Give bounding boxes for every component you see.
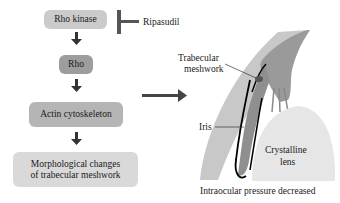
trabecular-label-line1: Trabecular xyxy=(178,53,219,63)
morphological-changes-box: Morphological changes of trabecular mesh… xyxy=(13,152,138,187)
ripasudil-label: Ripasudil xyxy=(143,17,179,27)
down-arrow-1 xyxy=(71,32,82,45)
actin-cytoskeleton-box: Actin cytoskeleton xyxy=(29,102,123,127)
down-arrow-3 xyxy=(71,132,82,145)
morph-label-line1: Morphological changes xyxy=(31,159,120,170)
trabecular-label-line2: meshwork xyxy=(184,64,224,74)
rho-kinase-label: Rho kinase xyxy=(54,14,96,25)
rho-kinase-box: Rho kinase xyxy=(44,10,107,29)
lens-shape xyxy=(252,106,335,181)
inhibition-bar-icon xyxy=(117,10,139,34)
lens-label-line1: Crystalline xyxy=(265,145,307,155)
iris-label: Iris xyxy=(199,122,212,132)
rho-box: Rho xyxy=(59,55,93,74)
actin-cytoskeleton-label: Actin cytoskeleton xyxy=(40,109,112,120)
trabecular-meshwork-shape xyxy=(255,76,263,82)
eye-illustration xyxy=(200,30,335,181)
rho-label: Rho xyxy=(68,59,84,70)
lens-label-line2: lens xyxy=(280,157,295,167)
down-arrow-2 xyxy=(71,79,82,92)
caption: Intraocular pressure decreased xyxy=(200,186,316,196)
right-arrow-icon xyxy=(142,89,187,102)
morph-label-line2: of trabecular meshwork xyxy=(30,170,120,181)
